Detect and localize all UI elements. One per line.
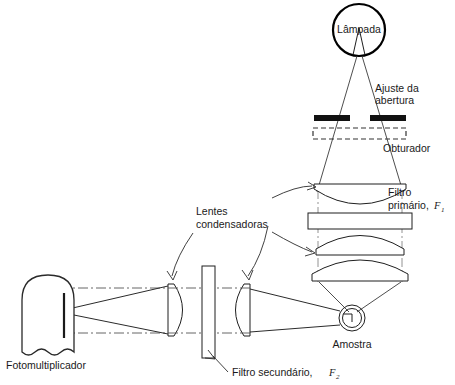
- emission-beam: [250, 289, 340, 332]
- optics-diagram: Lâmpada Ajuste da abertura Obturador Fil…: [0, 0, 455, 385]
- leader-to-focusing-lens: [272, 232, 312, 252]
- condenser-lens-left-icon: [168, 284, 183, 336]
- condenser-label-line1: Lentes: [196, 205, 228, 217]
- photomultiplier-group: [22, 275, 74, 355]
- leader-to-secondary-filter: [213, 356, 228, 372]
- aperture-bar-left[interactable]: [314, 115, 350, 121]
- secondary-filter-icon: [202, 266, 215, 358]
- photomultiplier-label: Fotomultiplicador: [6, 359, 86, 371]
- aperture-bar-right[interactable]: [370, 115, 406, 121]
- shutter-icon[interactable]: [313, 128, 406, 139]
- detection-beam: [64, 286, 168, 334]
- shutter-label: Obturador: [383, 142, 431, 154]
- focusing-lens-lower-icon: [312, 260, 408, 281]
- condenser-leader-arrows: [167, 226, 268, 280]
- secondary-filter-label: Filtro secundário,: [232, 366, 313, 378]
- leader-to-condenser-right: [248, 226, 268, 276]
- primary-filter-label-line1: Filtro: [388, 186, 411, 198]
- condenser-lens-left-group: [168, 284, 183, 336]
- leader-to-collimating-lens: [272, 186, 312, 198]
- primary-filter-label-line2: primário,: [388, 199, 429, 211]
- focusing-lens-lower-group: [312, 260, 408, 281]
- sample-label: Amostra: [332, 338, 371, 350]
- lamp-label: Lâmpada: [337, 23, 381, 35]
- aperture-label-line1: Ajuste da: [375, 82, 419, 94]
- aperture-group[interactable]: [314, 115, 406, 121]
- condenser-lens-right-icon: [236, 284, 251, 336]
- condenser-lens-right-group: [236, 284, 251, 336]
- secondary-filter-symbol: F: [328, 367, 336, 378]
- sample-marker-icon: [343, 314, 352, 322]
- photomultiplier-icon: [22, 275, 74, 355]
- leader-to-condenser-left: [172, 233, 193, 276]
- secondary-filter-subscript: 2: [336, 373, 340, 381]
- aperture-label-line2: abertura: [375, 94, 414, 106]
- focusing-lens-upper-icon: [316, 236, 404, 256]
- primary-filter-symbol: F: [433, 200, 441, 211]
- sample-group: [339, 305, 365, 331]
- condenser-label-line2: condensadoras: [196, 218, 268, 230]
- primary-filter-icon: [308, 213, 412, 229]
- primary-filter-subscript: 1: [441, 206, 445, 214]
- focusing-lens-upper-group: [316, 236, 404, 256]
